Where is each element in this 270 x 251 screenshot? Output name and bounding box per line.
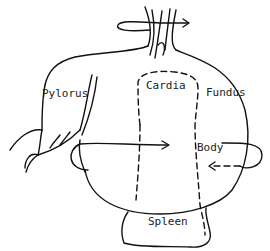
stomach-outline-right	[85, 50, 248, 214]
stomach-diagram: Pylorus Cardia Fundus Body Spleen	[0, 0, 270, 251]
top-rotation-arrow	[118, 22, 188, 31]
label-pylorus: Pylorus	[42, 88, 88, 100]
middle-rotation-arrow	[71, 143, 168, 170]
label-fundus: Fundus	[206, 87, 246, 99]
label-spleen: Spleen	[148, 216, 188, 228]
label-body: Body	[197, 142, 224, 154]
pylorus-outline	[79, 140, 85, 172]
right-rotation-loop	[222, 143, 262, 168]
stomach-drawing	[0, 0, 270, 251]
label-cardia: Cardia	[146, 80, 186, 92]
